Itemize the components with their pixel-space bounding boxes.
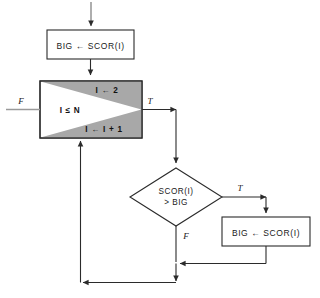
loop-false-branch: F — [6, 96, 40, 110]
update-box-label: BIG ← SCOR(I) — [232, 228, 300, 238]
decision-true-branch: T — [222, 183, 266, 213]
decision-diamond: SCOR(I) > BIG — [130, 168, 222, 226]
init-process-box: BIG ← SCOR(I) — [47, 30, 134, 59]
update-merge-connector — [180, 246, 266, 264]
decision-false-label: F — [182, 231, 189, 241]
loop-false-label: F — [17, 96, 24, 106]
init-box-label: BIG ← SCOR(I) — [56, 41, 124, 51]
decision-false-branch: F — [176, 226, 189, 262]
update-process-box: BIG ← SCOR(I) — [222, 217, 310, 246]
loop-true-label: T — [147, 96, 153, 106]
loop-condition-label: I ≤ N — [60, 106, 81, 115]
decision-true-label: T — [237, 183, 243, 193]
loop-true-branch: T — [142, 96, 176, 163]
loop-increment-label: I ← I + 1 — [85, 125, 122, 134]
loop-control-box: I ← 2 I ≤ N I ← I + 1 — [40, 81, 142, 138]
flowchart-canvas: BIG ← SCOR(I) I ← 2 I ≤ N I ← I + 1 F — [0, 0, 320, 298]
loop-init-label: I ← 2 — [95, 86, 118, 95]
decision-line2: > BIG — [164, 198, 188, 207]
decision-line1: SCOR(I) — [159, 187, 194, 196]
